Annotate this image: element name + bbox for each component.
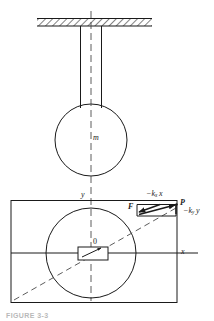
origin-label: 0 [93,238,97,246]
force-y-component-subscript: y [192,209,194,215]
force-x-component-head: −k [146,189,155,198]
force-label: F [128,203,133,211]
y-axis-label: y [81,191,85,199]
force-x-component-var: x [159,189,163,198]
origin-box [78,247,108,260]
lower-view-group [11,201,198,303]
force-y-component-label: −ky y [183,207,199,215]
figure-caption: FIGURE 3-3 [6,312,49,319]
point-p-marker [175,203,177,205]
force-x-component-arrow [139,205,160,213]
force-y-component-head: −k [183,206,192,215]
x-axis-label: x [181,248,185,256]
figure-container: m y x 0 P F −kx x −ky y FIGURE 3-3 [0,0,214,321]
figure-drawing [0,0,214,321]
mass-label: m [93,134,99,142]
force-x-component-subscript: x [155,192,157,198]
force-x-component-label: −kx x [146,190,162,198]
force-y-component-var: y [196,206,200,215]
ceiling-hatch-icon [37,19,152,27]
